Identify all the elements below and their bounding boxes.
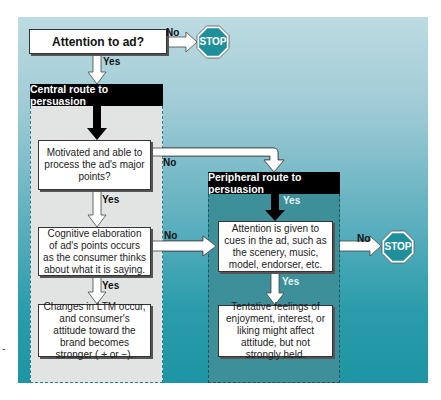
node-cognitive-elaboration: Cognitive elaboration of ad's points occ… <box>38 227 151 276</box>
node-tentative-feelings: Tentative feelings of enjoyment, interes… <box>218 305 333 357</box>
edge-label-no: No <box>163 157 176 168</box>
edge-label-no: No <box>166 27 179 38</box>
edge-label-no: No <box>164 230 177 241</box>
edge-label-no: No <box>357 233 370 244</box>
node-ltm-changes: Changes in LTM occur, and consumer's att… <box>38 304 151 357</box>
edge-label-yes: Yes <box>102 194 119 205</box>
edge-label-yes: Yes <box>102 280 119 291</box>
edge-label-yes: Yes <box>282 276 299 287</box>
edge-label-yes: Yes <box>283 195 300 206</box>
margin-mark: - <box>2 343 5 354</box>
node-motivated-able: Motivated and able to process the ad's m… <box>38 140 151 190</box>
edge-label-yes: Yes <box>103 56 120 67</box>
node-attention-cues: Attention is given to cues in the ad, su… <box>218 221 333 272</box>
